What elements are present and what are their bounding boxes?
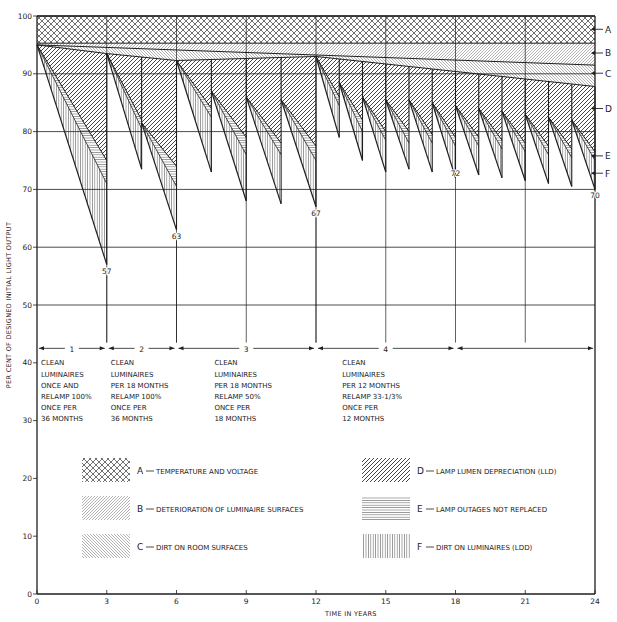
legend-label-e: LAMP OUTAGES NOT REPLACED	[436, 506, 547, 514]
marker-label-d: D	[605, 104, 612, 114]
y-tick-label: 80	[22, 127, 32, 136]
legend-label-d: LAMP LUMEN DEPRECIATION (LLD)	[436, 468, 557, 476]
value-label: 70	[590, 191, 600, 200]
period-note-line: RELAMP 100%	[111, 393, 162, 401]
arrow-left-icon	[109, 346, 114, 350]
y-tick-label: 20	[22, 474, 32, 483]
period-note-line: 36 MONTHS	[111, 415, 153, 423]
period-note-line: RELAMP 33-1/3%	[342, 393, 402, 401]
legend-label-f: DIRT ON LUMINAIRES (LDD)	[436, 544, 533, 552]
x-tick-label: 9	[244, 597, 249, 606]
y-tick-label: 50	[22, 301, 32, 310]
y-tick-label: 30	[22, 416, 32, 425]
period-note-line: LUMINAIRES	[111, 371, 154, 379]
x-axis-title: TIME IN YEARS	[324, 610, 377, 618]
arrow-left-icon	[458, 346, 463, 350]
period-note-line: CLEAN	[111, 359, 134, 367]
legend-swatch-f	[362, 534, 410, 558]
legend-key-a: A	[137, 466, 144, 476]
period-note-line: LUMINAIRES	[214, 371, 257, 379]
legend-label-a: TEMPERATURE AND VOLTAGE	[155, 468, 258, 476]
legend-swatch-e	[362, 496, 410, 520]
period-note-line: RELAMP 100%	[41, 393, 92, 401]
period-number: 3	[244, 345, 249, 354]
arrow-right-icon	[170, 346, 175, 350]
value-label: 57	[102, 267, 112, 276]
marker-label-f: F	[605, 169, 610, 179]
value-label: 72	[451, 169, 461, 178]
period-number: 2	[139, 345, 144, 354]
legend-key-e: E	[417, 504, 423, 514]
period-note-line: 18 MONTHS	[214, 415, 256, 423]
y-tick-label: 10	[22, 532, 32, 541]
period-note-line: ONCE PER	[214, 404, 250, 412]
x-tick-label: 21	[520, 597, 530, 606]
marker-label-b: B	[605, 48, 611, 58]
period-note-line: 12 MONTHS	[342, 415, 384, 423]
period-note-line: PER 18 MONTHS	[111, 382, 169, 390]
period-note-line: RELAMP 50%	[214, 393, 261, 401]
period-number: 4	[383, 345, 388, 354]
period-note-line: CLEAN	[214, 359, 237, 367]
period-note-line: ONCE PER	[41, 404, 77, 412]
legend-swatch-a	[82, 458, 130, 482]
legend-swatch-c	[82, 534, 130, 558]
legend-swatch-b	[82, 496, 130, 520]
arrow-left-icon	[39, 346, 44, 350]
legend: ATEMPERATURE AND VOLTAGEBDETERIORATION O…	[82, 458, 557, 558]
y-tick-label: 0	[27, 590, 32, 599]
legend-label-b: DETERIORATION OF LUMINAIRE SURFACES	[156, 506, 304, 514]
y-tick-label: 60	[22, 243, 32, 252]
maintenance-periods: 1CLEANLUMINAIRESONCE ANDRELAMP 100%ONCE …	[39, 345, 593, 423]
y-tick-label: 70	[22, 185, 32, 194]
period-note-line: LUMINAIRES	[342, 371, 385, 379]
marker-label-c: C	[605, 69, 611, 79]
period-note-line: ONCE AND	[41, 382, 79, 390]
period-note-line: ONCE PER	[342, 404, 378, 412]
period-number: 1	[69, 345, 74, 354]
arrow-left-icon	[318, 346, 323, 350]
arrow-left-icon	[179, 346, 184, 350]
arrow-right-icon	[100, 346, 105, 350]
legend-key-c: C	[137, 542, 143, 552]
marker-label-a: A	[605, 25, 612, 35]
value-label: 63	[172, 232, 182, 241]
legend-key-b: B	[137, 504, 143, 514]
chart-svg: 010203040506070809010003691215182124TIME…	[0, 0, 617, 622]
light-loss-factor-chart: 010203040506070809010003691215182124TIME…	[0, 0, 617, 622]
y-tick-label: 90	[22, 69, 32, 78]
y-tick-label: 100	[18, 12, 33, 21]
y-axis-title: PER CENT OF DESIGNED INITIAL LIGHT OUTPU…	[5, 222, 13, 388]
marker-label-e: E	[605, 151, 611, 161]
arrow-right-icon	[588, 346, 593, 350]
legend-label-c: DIRT ON ROOM SURFACES	[156, 544, 248, 552]
period-note-line: CLEAN	[342, 359, 365, 367]
arrow-right-icon	[309, 346, 314, 350]
x-tick-label: 24	[590, 597, 600, 606]
legend-key-d: D	[417, 466, 424, 476]
x-tick-label: 18	[451, 597, 461, 606]
arrow-right-icon	[449, 346, 454, 350]
period-note-line: LUMINAIRES	[41, 371, 84, 379]
x-tick-label: 6	[174, 597, 179, 606]
x-tick-label: 12	[311, 597, 321, 606]
period-note-line: PER 12 MONTHS	[342, 382, 400, 390]
value-label: 67	[311, 209, 321, 218]
period-note-line: PER 18 MONTHS	[214, 382, 272, 390]
x-tick-label: 15	[381, 597, 391, 606]
period-note-line: ONCE PER	[111, 404, 147, 412]
legend-key-f: F	[417, 542, 422, 552]
x-tick-label: 3	[104, 597, 109, 606]
period-note-line: 36 MONTHS	[41, 415, 83, 423]
legend-swatch-d	[362, 458, 410, 482]
x-tick-label: 0	[35, 597, 40, 606]
y-tick-label: 40	[22, 358, 32, 367]
period-note-line: CLEAN	[41, 359, 64, 367]
